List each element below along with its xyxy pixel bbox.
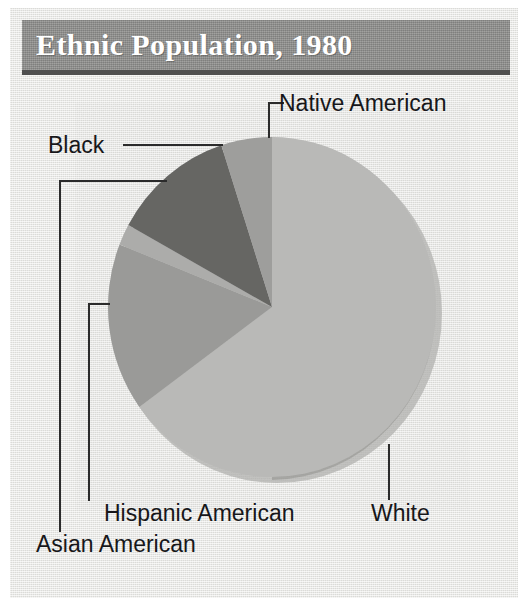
leader-line-black (123, 144, 223, 146)
pie-chart: Native American Black Hispanic American … (0, 0, 530, 615)
leader-line-native-american-vertical (268, 102, 270, 138)
leader-line-hispanic-american-vertical (88, 303, 90, 501)
figure-page: Ethnic Population, 1980 (0, 0, 530, 615)
slice-label-asian-american: Asian American (36, 531, 196, 557)
slice-label-native-american: Native American (279, 90, 446, 116)
leader-line-white (388, 444, 390, 500)
leader-line-hispanic-american-horizontal (88, 303, 110, 305)
pie-wedges (108, 137, 436, 477)
leader-line-asian-american-horizontal (59, 180, 167, 182)
slice-label-black: Black (48, 132, 104, 158)
slice-label-hispanic-american: Hispanic American (104, 500, 294, 526)
leader-line-asian-american-vertical (59, 180, 61, 532)
slice-label-white: White (371, 500, 430, 526)
